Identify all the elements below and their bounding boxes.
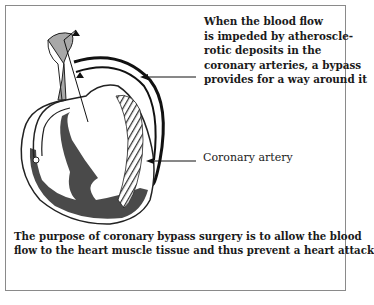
bypass-annotation: When the blood flow is impeded by athero… xyxy=(204,14,354,87)
figure-caption: The purpose of coronary bypass surgery i… xyxy=(14,229,354,257)
caption-line: flow to the heart muscle tissue and thus… xyxy=(14,243,354,257)
bypass-annotation-line: provides for a way around it xyxy=(204,72,354,87)
bypass-annotation-line: When the blood flow xyxy=(204,14,354,29)
bypass-annotation-line: is impeded by atheroscle- xyxy=(204,29,354,44)
coronary-artery-label: Coronary artery xyxy=(203,151,293,166)
caption-line: The purpose of coronary bypass surgery i… xyxy=(14,229,354,243)
arrow-head-icon xyxy=(72,30,80,36)
bypass-annotation-line: coronary arteries, a bypass xyxy=(204,58,354,73)
bypass-annotation-line: rotic deposits in the xyxy=(204,43,354,58)
